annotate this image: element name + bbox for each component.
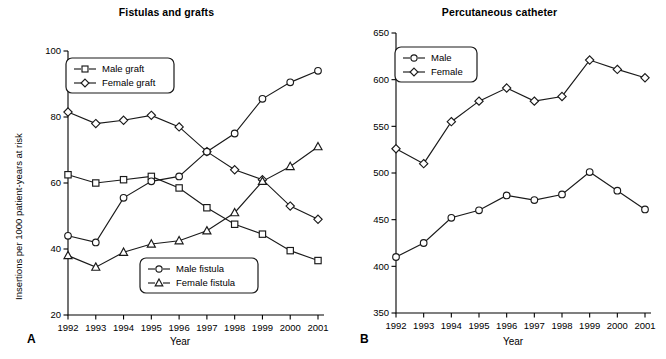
data-point bbox=[641, 74, 649, 82]
data-point bbox=[147, 111, 155, 119]
svg-text:1997: 1997 bbox=[196, 322, 217, 333]
data-point bbox=[420, 240, 427, 247]
legend-entry-label: Male graft bbox=[102, 63, 145, 74]
data-point bbox=[231, 221, 237, 227]
data-point bbox=[120, 177, 126, 183]
data-point bbox=[531, 197, 538, 204]
legend-entry-label: Female graft bbox=[102, 77, 156, 88]
data-point bbox=[314, 142, 322, 149]
data-point bbox=[120, 195, 127, 202]
svg-text:2000: 2000 bbox=[280, 322, 301, 333]
data-point bbox=[148, 178, 155, 185]
svg-text:1998: 1998 bbox=[551, 320, 572, 331]
data-point bbox=[420, 160, 428, 168]
svg-text:1999: 1999 bbox=[579, 320, 600, 331]
panel-b: Percutaneous catheter Insertions per 100… bbox=[333, 0, 666, 359]
svg-text:2001: 2001 bbox=[634, 320, 655, 331]
svg-text:20: 20 bbox=[50, 309, 61, 320]
svg-text:2001: 2001 bbox=[307, 322, 328, 333]
svg-text:400: 400 bbox=[373, 261, 389, 272]
svg-text:1992: 1992 bbox=[57, 322, 78, 333]
svg-text:1992: 1992 bbox=[385, 320, 406, 331]
svg-text:1994: 1994 bbox=[441, 320, 462, 331]
data-point bbox=[65, 172, 71, 178]
data-point bbox=[287, 247, 293, 253]
data-point bbox=[503, 84, 511, 92]
data-point bbox=[448, 214, 455, 221]
data-point bbox=[64, 108, 72, 116]
data-point bbox=[259, 231, 265, 237]
svg-text:550: 550 bbox=[373, 121, 389, 132]
figure-container: Fistulas and grafts Insertions per 1000 … bbox=[0, 0, 666, 359]
svg-text:80: 80 bbox=[50, 111, 61, 122]
legend-entry-label: Male bbox=[431, 52, 452, 63]
chart-legend: Male fistulaFemale fistula bbox=[140, 258, 258, 293]
svg-text:1996: 1996 bbox=[169, 322, 190, 333]
svg-text:100: 100 bbox=[45, 45, 61, 56]
data-point bbox=[176, 173, 183, 180]
data-point bbox=[613, 65, 621, 73]
data-point bbox=[315, 257, 321, 263]
svg-text:600: 600 bbox=[373, 74, 389, 85]
svg-text:1995: 1995 bbox=[141, 322, 162, 333]
data-point bbox=[642, 206, 649, 213]
svg-text:650: 650 bbox=[373, 27, 389, 38]
data-point bbox=[92, 119, 100, 127]
data-point bbox=[203, 227, 211, 234]
data-point bbox=[475, 97, 483, 105]
data-point bbox=[314, 215, 322, 223]
data-point bbox=[614, 187, 621, 194]
svg-text:1994: 1994 bbox=[113, 322, 134, 333]
data-point bbox=[92, 239, 99, 246]
legend-entry-label: Female bbox=[431, 66, 463, 77]
data-point bbox=[65, 232, 72, 239]
data-point bbox=[530, 97, 538, 105]
data-point bbox=[176, 185, 182, 191]
data-point bbox=[204, 205, 210, 211]
data-point bbox=[231, 130, 238, 137]
chart-legend: Male graftFemale graft bbox=[66, 58, 174, 93]
data-point bbox=[204, 148, 211, 155]
data-point bbox=[476, 207, 483, 214]
data-point bbox=[447, 118, 455, 126]
legend-entry-label: Female fistula bbox=[176, 277, 236, 288]
svg-text:1993: 1993 bbox=[413, 320, 434, 331]
svg-text:450: 450 bbox=[373, 214, 389, 225]
data-point bbox=[393, 254, 400, 261]
data-point bbox=[287, 79, 294, 86]
chart-a-plot: 2040608010019921993199419951996199719981… bbox=[0, 0, 333, 359]
data-point bbox=[586, 169, 593, 176]
svg-text:1995: 1995 bbox=[468, 320, 489, 331]
data-point bbox=[559, 191, 566, 198]
data-point bbox=[64, 251, 72, 258]
svg-text:350: 350 bbox=[373, 307, 389, 318]
svg-text:40: 40 bbox=[50, 243, 61, 254]
svg-text:60: 60 bbox=[50, 177, 61, 188]
svg-text:500: 500 bbox=[373, 167, 389, 178]
data-point bbox=[259, 96, 266, 103]
svg-text:1999: 1999 bbox=[252, 322, 273, 333]
svg-text:1997: 1997 bbox=[524, 320, 545, 331]
svg-text:1998: 1998 bbox=[224, 322, 245, 333]
data-point bbox=[231, 166, 239, 174]
data-point bbox=[286, 162, 294, 169]
data-point bbox=[503, 192, 510, 199]
data-point bbox=[93, 180, 99, 186]
panel-a: Fistulas and grafts Insertions per 1000 … bbox=[0, 0, 333, 359]
chart-b-plot: 3504004505005506006501992199319941995199… bbox=[333, 0, 666, 359]
chart-legend: MaleFemale bbox=[395, 47, 477, 82]
svg-text:1993: 1993 bbox=[85, 322, 106, 333]
legend-entry-label: Male fistula bbox=[176, 263, 225, 274]
data-point bbox=[315, 67, 322, 74]
data-point bbox=[119, 116, 127, 124]
svg-text:2000: 2000 bbox=[607, 320, 628, 331]
svg-text:1996: 1996 bbox=[496, 320, 517, 331]
data-point bbox=[392, 145, 400, 153]
